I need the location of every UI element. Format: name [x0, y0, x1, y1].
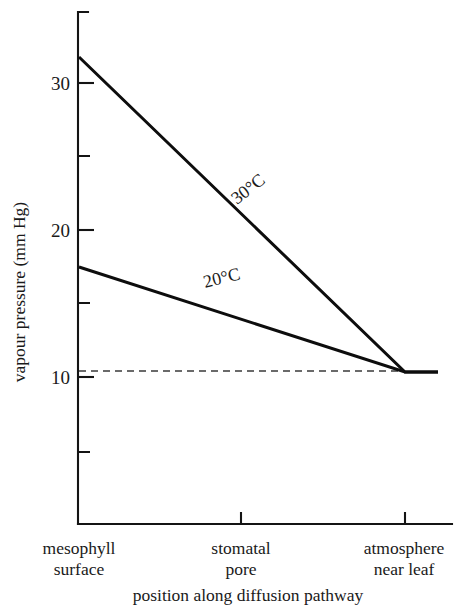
x-category-label-stomatal: stomatal pore: [211, 538, 270, 579]
svg-text:mesophyll: mesophyll: [43, 538, 116, 558]
svg-text:surface: surface: [54, 559, 105, 579]
y-axis-title: vapour pressure (mm Hg): [9, 202, 29, 382]
x-category-label-mesophyll: mesophyll surface: [43, 538, 116, 579]
y-tick-label-20: 20: [51, 220, 70, 241]
y-tick-label-10: 10: [51, 367, 70, 388]
x-axis-title: position along diffusion pathway: [133, 585, 364, 605]
x-category-label-atmosphere: atmosphere near leaf: [364, 538, 445, 579]
vapour-pressure-line-chart: 30 20 10 30°C 20°C mesophyll surface sto…: [0, 0, 466, 610]
svg-text:near leaf: near leaf: [374, 559, 435, 579]
series-line-20c: [79, 267, 438, 372]
y-axis-minor-ticks: [78, 156, 90, 452]
svg-text:pore: pore: [225, 559, 256, 579]
chart-page: 30 20 10 30°C 20°C mesophyll surface sto…: [0, 0, 466, 610]
svg-text:stomatal: stomatal: [211, 538, 270, 558]
x-axis-ticks: [241, 512, 405, 524]
svg-text:atmosphere: atmosphere: [364, 538, 445, 558]
series-label-20c: 20°C: [201, 263, 242, 291]
series-label-30c: 30°C: [227, 169, 269, 208]
y-axis-major-ticks: [78, 83, 94, 377]
y-tick-label-30: 30: [51, 73, 70, 94]
